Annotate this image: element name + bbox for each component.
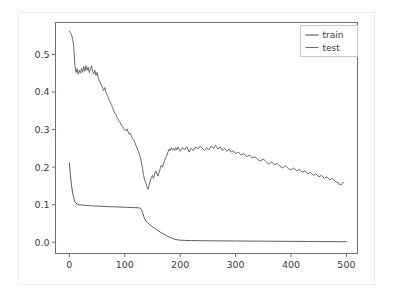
y-tick-label: 0.0 (34, 237, 49, 248)
y-tick-label: 0.5 (34, 49, 49, 60)
y-tick-label: 0.2 (34, 162, 49, 173)
x-tick-label: 0 (66, 259, 72, 270)
data-series-group (69, 31, 346, 242)
axis-tick-labels: 01002003004005000.00.10.20.30.40.5 (34, 49, 355, 270)
x-tick-label: 200 (171, 259, 189, 270)
y-tick-label: 0.4 (34, 86, 49, 97)
y-tick-label: 0.1 (34, 199, 49, 210)
legend-label-train[interactable]: train (323, 30, 344, 40)
line-chart: 01002003004005000.00.10.20.30.40.5 train… (0, 0, 393, 300)
series-line-train (69, 163, 346, 242)
x-tick-label: 300 (227, 259, 245, 270)
legend-label-test[interactable]: test (323, 43, 341, 53)
x-tick-label: 400 (282, 259, 300, 270)
x-tick-label: 100 (116, 259, 134, 270)
y-tick-label: 0.3 (34, 124, 49, 135)
chart-legend[interactable]: traintest (301, 26, 358, 57)
x-tick-label: 500 (337, 259, 355, 270)
axes-spines (56, 23, 358, 254)
axis-ticks (52, 54, 346, 257)
plot-area-border (56, 23, 358, 254)
